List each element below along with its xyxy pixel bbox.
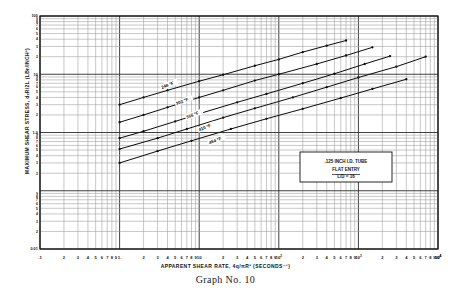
data-series: 464 °F	[118, 78, 407, 164]
y-minor-label: 6	[36, 202, 38, 206]
data-point	[222, 74, 224, 76]
data-point	[118, 162, 120, 164]
tick-labels: .1234567891.2345678910234567891022345678…	[30, 14, 441, 260]
data-point	[166, 106, 168, 108]
x-decade-label: 10	[197, 255, 202, 260]
x-minor-label: 6	[180, 255, 183, 260]
data-point	[142, 114, 144, 116]
curve-label: 248 °F	[159, 79, 178, 91]
y-decade-label: 10	[34, 73, 38, 77]
x-minor-label: 6	[340, 255, 343, 260]
x-minor-label: 5	[413, 255, 416, 260]
data-point	[389, 55, 391, 57]
x-minor-label: 5	[174, 255, 177, 260]
data-point	[222, 116, 224, 118]
x-minor-label: 7	[186, 255, 189, 260]
y-axis-title: MAXIMUM SHEAR STRESS, dᵥR/2L (LBғ/INCH²)	[24, 16, 30, 206]
data-point	[118, 137, 120, 139]
data-point	[371, 88, 373, 90]
x-decade-label: 104	[435, 254, 442, 260]
data-point	[118, 104, 120, 106]
data-point	[142, 96, 144, 98]
x-minor-label: 4	[405, 255, 408, 260]
data-point	[142, 130, 144, 132]
x-minor-label: 2	[222, 255, 225, 260]
data-point	[156, 137, 158, 139]
x-decade-label: 103	[355, 254, 362, 260]
data-point	[166, 89, 168, 91]
data-point	[316, 63, 318, 65]
y-minor-label: 4	[36, 96, 38, 100]
curve-label-text: 410 °F	[198, 123, 212, 132]
x-minor-label: 5	[95, 255, 98, 260]
y-minor-label: 2	[36, 172, 38, 176]
data-point	[254, 65, 256, 67]
data-point	[302, 82, 304, 84]
data-point	[405, 78, 407, 80]
x-minor-label: 4	[87, 255, 90, 260]
data-point	[118, 121, 120, 123]
data-point	[236, 101, 238, 103]
x-minor-label: 3	[156, 255, 159, 260]
x-minor-label: 3	[77, 255, 80, 260]
data-point	[186, 128, 188, 130]
y-minor-label: 6	[36, 27, 38, 31]
y-decade-label: 100	[31, 14, 37, 18]
data-point	[254, 107, 256, 109]
x-minor-label: 2	[302, 255, 305, 260]
y-minor-label: 2	[36, 113, 38, 117]
log-log-chart: .1234567891.2345678910234567891022345678…	[0, 0, 451, 268]
x-minor-label: 8	[270, 255, 273, 260]
data-point	[198, 96, 200, 98]
x-minor-label: 6	[101, 255, 104, 260]
y-decade-label: 0.01	[30, 247, 37, 251]
data-point	[326, 86, 328, 88]
annotation-line-entry: FLAT ENTRY	[332, 167, 360, 172]
y-minor-label: 3	[36, 161, 38, 165]
data-point	[302, 108, 304, 110]
x-minor-label: 3	[316, 255, 319, 260]
data-point	[395, 66, 397, 68]
y-minor-label: 3	[36, 45, 38, 49]
data-point	[302, 51, 304, 53]
x-minor-label: 4	[326, 255, 329, 260]
data-point	[230, 128, 232, 130]
data-point	[425, 56, 427, 58]
y-minor-label: 4	[36, 37, 38, 41]
data-point	[156, 150, 158, 152]
x-minor-label: 2	[142, 255, 145, 260]
y-minor-label: 5	[36, 148, 38, 152]
data-point	[340, 97, 342, 99]
y-minor-label: 4	[36, 212, 38, 216]
x-minor-label: 7	[106, 255, 109, 260]
x-minor-label: 7	[345, 255, 348, 260]
y-minor-label: 5	[36, 32, 38, 36]
y-minor-label: 2	[36, 230, 38, 234]
grid-lines	[40, 16, 438, 249]
series-line	[120, 40, 346, 104]
data-point	[265, 93, 267, 95]
data-point	[345, 54, 347, 56]
y-minor-label: 4	[36, 154, 38, 158]
y-minor-label: 9	[36, 192, 38, 196]
data-point	[222, 89, 224, 91]
data-point	[254, 79, 256, 81]
data-point	[333, 73, 335, 75]
data-point	[292, 96, 294, 98]
data-point	[198, 80, 200, 82]
y-minor-label: 5	[36, 90, 38, 94]
x-minor-label: 6	[260, 255, 263, 260]
x-minor-label: 2	[381, 255, 384, 260]
x-minor-label: 7	[425, 255, 428, 260]
data-point	[190, 140, 192, 142]
y-minor-label: 2	[36, 55, 38, 59]
data-series: 248 °F	[118, 39, 347, 106]
x-minor-label: 8	[111, 255, 114, 260]
x-axis-title: APPARENT SHEAR RATE, 4q/πR³ (SECONDS⁻¹)	[0, 263, 451, 269]
data-point	[357, 76, 359, 78]
x-minor-label: 5	[333, 255, 336, 260]
y-minor-label: 3	[36, 220, 38, 224]
x-minor-label: 2	[63, 255, 66, 260]
x-minor-label: 3	[236, 255, 239, 260]
data-point	[364, 63, 366, 65]
